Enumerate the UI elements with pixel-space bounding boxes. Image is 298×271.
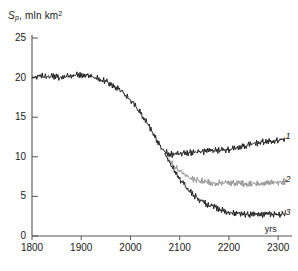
y-tick-label: 20 (6, 72, 26, 83)
chart-figure: Sp, mln km2 0510152025 18001900200021002… (0, 0, 298, 271)
curve-number-label-2: 2 (286, 174, 291, 184)
x-tick-label: 2300 (258, 242, 298, 253)
series-line-1 (32, 72, 285, 158)
y-axis-label-units: mln km (25, 10, 58, 21)
data-series-layer (32, 72, 285, 218)
curve-number-label-3: 3 (286, 207, 291, 217)
y-tick-label: 0 (6, 230, 26, 241)
x-axis-unit-label: yrs (265, 224, 277, 234)
y-axis-label: Sp, mln km2 (8, 10, 62, 21)
y-axis-label-symbol: S (8, 10, 15, 21)
curve-number-label-1: 1 (286, 131, 291, 141)
x-tick-label: 2100 (160, 242, 200, 253)
y-tick-label: 15 (6, 111, 26, 122)
series-line-3 (165, 154, 286, 218)
y-tick-label: 10 (6, 151, 26, 162)
x-tick-label: 2000 (110, 242, 150, 253)
x-tick-label: 1800 (12, 242, 52, 253)
y-tick-label: 25 (6, 32, 26, 43)
axes (32, 35, 292, 240)
y-tick-label: 5 (6, 190, 26, 201)
x-tick-label: 1900 (61, 242, 101, 253)
x-tick-label: 2200 (209, 242, 249, 253)
plot-area (0, 0, 298, 271)
y-axis-label-exponent: 2 (58, 10, 62, 17)
